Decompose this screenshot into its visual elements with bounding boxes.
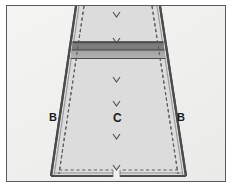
chevron-down-icon: [112, 76, 121, 83]
chevron-down-icon: [112, 100, 121, 107]
pattern-diagram-figure: B B C: [0, 0, 232, 188]
diagram-canvas: [0, 0, 232, 188]
panel-label-b-left: B: [49, 112, 57, 123]
chevron-down-icon: [112, 133, 121, 140]
chevron-down-icon: [112, 37, 121, 44]
chevron-down-icon: [112, 11, 121, 18]
chevron-down-icon: [112, 164, 121, 171]
panel-label-b-right: B: [177, 112, 185, 123]
band-light-strip: [71, 50, 166, 59]
panel-label-c: C: [113, 112, 122, 124]
